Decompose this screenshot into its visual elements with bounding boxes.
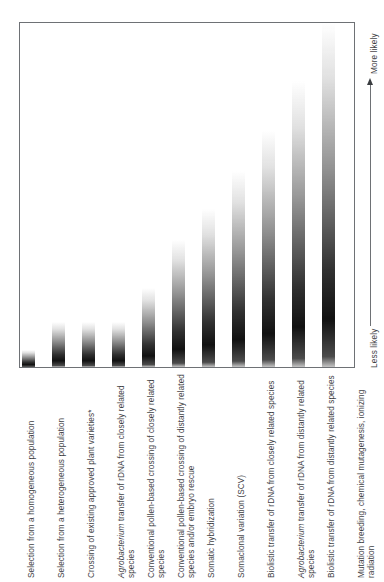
bar — [142, 288, 155, 367]
bar — [202, 209, 215, 367]
bar — [82, 322, 95, 367]
bar — [22, 350, 35, 367]
up-arrow-icon — [367, 78, 373, 85]
bar — [322, 23, 335, 367]
axis-label-less-likely: Less likely — [370, 329, 379, 368]
bar — [52, 322, 65, 367]
likelihood-axis: More likely Less likely — [357, 22, 384, 368]
bar — [232, 171, 245, 367]
bar — [172, 240, 185, 367]
category-label: Selection from a homogeneous population — [27, 372, 37, 578]
bar — [262, 130, 275, 367]
category-label: Conventional pollen-based crossing of di… — [177, 372, 198, 578]
category-label-group: Selection from a homogeneous populationS… — [19, 372, 359, 582]
category-label: Agrobacterium transfer of rDNA from clos… — [117, 372, 138, 578]
bar — [292, 81, 305, 367]
category-label: Biolistic transfer of rDNA from distantl… — [327, 372, 337, 578]
category-label: Biolistic transfer of rDNA from closely … — [267, 372, 277, 578]
bar — [112, 322, 125, 367]
category-label: Agrobacterium transfer of rDNA from dist… — [297, 372, 318, 578]
category-label: Selection from a heterogeneous populatio… — [57, 372, 67, 578]
category-label: Crossing of existing approved plant vari… — [87, 372, 97, 578]
category-label: Conventional pollen-based crossing of cl… — [147, 372, 168, 578]
category-label: Mutation breeding, chemical mutagenesis,… — [357, 372, 378, 578]
axis-line — [370, 84, 371, 326]
axis-label-more-likely: More likely — [370, 33, 379, 74]
category-label: Somaclonal variation (SCV) — [237, 372, 247, 578]
plot-area — [19, 22, 355, 368]
likelihood-chart-figure: More likely Less likely Selection from a… — [0, 0, 384, 582]
category-label: Somatic hybridization — [207, 372, 217, 578]
